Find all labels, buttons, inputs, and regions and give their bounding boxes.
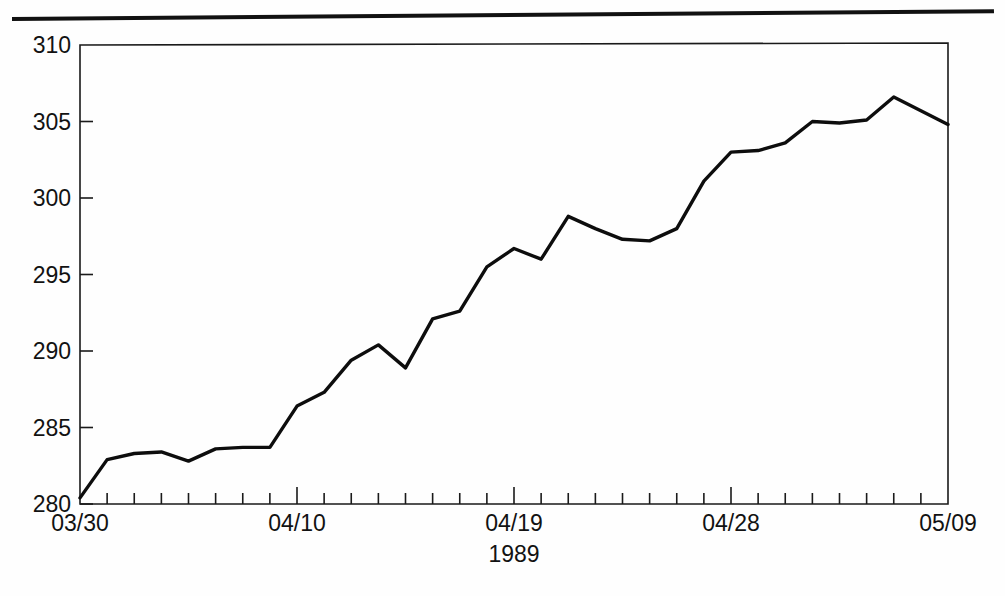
x-tick-label: 05/09: [919, 510, 977, 536]
y-tick-label: 295: [33, 262, 71, 288]
x-axis-tick-labels: 03/3004/1004/1904/2805/09: [51, 510, 977, 536]
chart-canvas: 280285290295300305310 03/3004/1004/1904/…: [0, 0, 1005, 596]
y-tick-label: 285: [33, 415, 71, 441]
y-axis-tick-labels: 280285290295300305310: [33, 32, 71, 517]
data-series-line: [80, 97, 948, 498]
x-tick-label: 04/28: [702, 510, 760, 536]
plot-frame: [80, 43, 948, 504]
y-tick-label: 290: [33, 338, 71, 364]
x-tick-label: 04/19: [485, 510, 543, 536]
line-chart: 280285290295300305310 03/3004/1004/1904/…: [0, 0, 1005, 596]
x-tick-label: 03/30: [51, 510, 109, 536]
y-axis-ticks: [80, 122, 93, 505]
x-axis-ticks: [107, 487, 921, 504]
x-axis-title: 1989: [488, 541, 539, 567]
x-tick-label: 04/10: [268, 510, 326, 536]
y-tick-label: 305: [33, 109, 71, 135]
y-tick-label: 300: [33, 185, 71, 211]
plot-border: [80, 43, 948, 504]
figure-page: 280285290295300305310 03/3004/1004/1904/…: [0, 0, 1005, 596]
y-tick-label: 310: [33, 32, 71, 58]
